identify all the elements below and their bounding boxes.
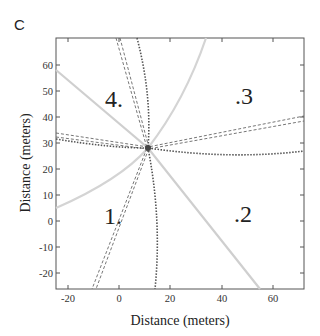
x-tick-label: -20	[61, 293, 75, 304]
region-label-3: .3	[235, 83, 253, 109]
region-label-1: 1.	[104, 203, 122, 229]
y-axis-title: Distance (meters)	[18, 113, 34, 212]
x-tick-labels: -20 0 20 40 60	[61, 293, 278, 304]
y-tick-label: -10	[39, 242, 53, 253]
x-tick-label: 60	[268, 293, 279, 304]
x-tick-label: 20	[165, 293, 176, 304]
plot-area: 4. .3 1. .2	[56, 38, 304, 289]
y-tick-label: 10	[43, 190, 54, 201]
y-tick-label: 40	[43, 112, 54, 123]
panel-label: C	[14, 16, 25, 33]
x-axis-title: Distance (meters)	[130, 313, 229, 329]
y-tick-label: 50	[43, 86, 54, 97]
region-label-2: .2	[234, 201, 252, 227]
center-point	[145, 145, 151, 151]
region-label-4: 4.	[105, 86, 123, 112]
y-tick-label: 0	[48, 216, 53, 227]
y-tick-label: 30	[43, 138, 54, 149]
x-tick-label: 40	[217, 293, 228, 304]
y-tick-label: -20	[39, 268, 53, 279]
y-tick-labels: 60 50 40 30 20 10 0 -10 -20	[39, 60, 53, 279]
plot-frame	[56, 38, 304, 289]
figure: C 4. .3 1. .2	[0, 0, 320, 336]
y-tick-label: 60	[43, 60, 54, 71]
y-tick-label: 20	[43, 164, 54, 175]
x-tick-label: 0	[116, 293, 121, 304]
